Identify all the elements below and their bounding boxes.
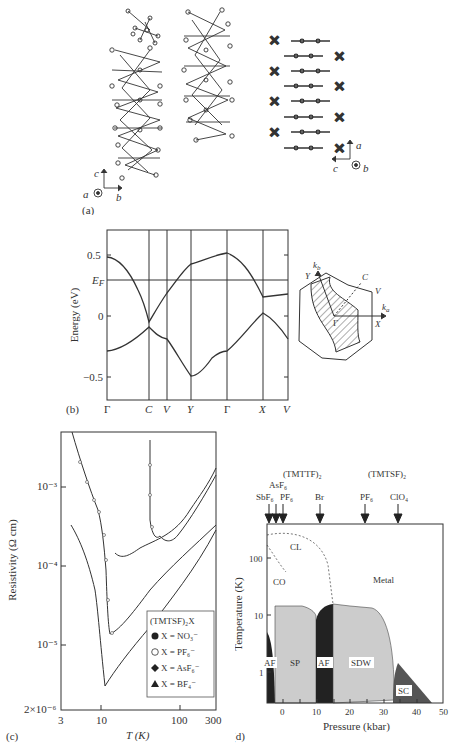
svg-text:C: C — [145, 403, 153, 415]
svg-text:✕: ✕ — [334, 49, 345, 64]
bz-ka-label: ka — [382, 302, 390, 314]
panel-c-label: (c) — [6, 730, 19, 743]
legend-item-bf4: X = BF₄⁻ — [161, 679, 196, 689]
bz-kb-label: kb — [313, 260, 321, 272]
legend-item-asf6: X = AsF₆⁻ — [161, 663, 200, 673]
xtick-30: 30 — [379, 707, 389, 717]
region-af-mid — [316, 604, 333, 703]
ytick-100: 100 — [249, 554, 263, 564]
curve-asf6 — [150, 440, 216, 541]
panel-a-label: (a) — [82, 204, 95, 215]
upper-band — [107, 253, 288, 322]
ytick-10: 10 — [254, 611, 264, 621]
svg-text:✕: ✕ — [334, 141, 345, 156]
arrow-label-br: Br — [315, 492, 324, 502]
middle-molecular-stack — [182, 8, 234, 142]
xtick-3: 3 — [58, 714, 64, 726]
ytick-0: 0 — [98, 310, 104, 322]
brillouin-zone — [299, 271, 386, 360]
panel-a: c b a (a) ✕ ✕ ✕ ✕ ✕ ✕ ✕ ✕ a c b — [0, 0, 459, 215]
xtick-0: 0 — [280, 707, 285, 717]
svg-text:✕: ✕ — [269, 125, 280, 140]
arrow-label-asf6: AsF₆ — [269, 480, 287, 490]
region-label-sc: SC — [398, 686, 409, 696]
axis-a-label: a — [83, 188, 89, 200]
svg-text:✕: ✕ — [269, 64, 280, 79]
svg-text:Y: Y — [187, 403, 195, 415]
band-xticks: Γ C V Y Γ X V — [104, 403, 291, 415]
svg-text:Γ: Γ — [224, 403, 230, 415]
axis-b-label: b — [116, 191, 122, 203]
fermi-label: EF — [91, 274, 105, 288]
region-label-sp: SP — [290, 658, 300, 668]
resistivity-xlabel: T (K) — [126, 729, 150, 742]
legend-item-pf6: X = PF₆⁻ — [161, 647, 195, 657]
arrow-label-pf6-tmttf: PF₆ — [280, 492, 293, 502]
panel-b: 0.5 0 −0.5 EF Energy (eV) Γ C V Y Γ X V … — [0, 215, 459, 420]
lower-band — [107, 313, 288, 376]
resistivity-chart: 10⁻³ 10⁻⁴ 10⁻⁵ 2×10⁻⁶ 3 10 100 300 T (K)… — [0, 420, 235, 746]
side-view-stack: ✕ ✕ ✕ ✕ ✕ ✕ ✕ ✕ — [269, 33, 360, 169]
region-label-af-mid: AF — [318, 658, 330, 668]
ytick-2e-6: 2×10⁻⁶ — [24, 703, 57, 715]
legend-item-no3: X = NO₃⁻ — [161, 631, 198, 641]
arrow-label-pf6-tmtsf: PF₆ — [360, 492, 373, 502]
region-label-sdw: SDW — [351, 658, 372, 668]
svg-text:V: V — [283, 403, 291, 415]
xtick-300: 300 — [205, 714, 222, 726]
svg-text:✕: ✕ — [334, 79, 345, 94]
phase-diagram-chart: (TMTTF)₂ (TMTSF)₂ SbF₆ AsF₆ PF₆ Br PF₆ C… — [235, 420, 459, 746]
xtick-10: 10 — [312, 707, 322, 717]
crystal-structure-drawing: c b a (a) ✕ ✕ ✕ ✕ ✕ ✕ ✕ ✕ a c b — [0, 0, 459, 215]
svg-text:✕: ✕ — [269, 33, 280, 48]
axis-b-label-right: b — [363, 162, 369, 174]
legend-marker-filled-circle — [152, 633, 159, 640]
resistivity-legend: (TMTSF)₂X X = NO₃⁻ X = PF₆⁻ X = AsF₆⁻ X … — [147, 611, 214, 697]
axis-c-label: c — [94, 167, 99, 179]
svg-text:✕: ✕ — [334, 110, 345, 125]
phase-xlabel: Pressure (kbar) — [323, 720, 390, 733]
region-label-metal: Metal — [373, 575, 394, 585]
region-label-af-left: AF — [264, 658, 276, 668]
bz-Y-label: Y — [305, 271, 311, 281]
panel-c: 10⁻³ 10⁻⁴ 10⁻⁵ 2×10⁻⁶ 3 10 100 300 T (K)… — [0, 420, 235, 746]
panel-d-label: (d) — [235, 730, 245, 743]
compound-arrows — [265, 504, 402, 523]
axis-a-label-right: a — [356, 139, 362, 151]
xtick-20: 20 — [345, 707, 355, 717]
legend-title: (TMTSF)₂X — [150, 616, 195, 626]
region-label-co: CO — [273, 577, 286, 587]
band-structure-chart: 0.5 0 −0.5 EF Energy (eV) Γ C V Y Γ X V … — [0, 215, 459, 420]
region-sdw — [333, 604, 394, 703]
band-ylabel: Energy (eV) — [68, 287, 81, 342]
xtick-10: 10 — [96, 714, 108, 726]
ytick-neg0.5: −0.5 — [83, 371, 103, 383]
row: ✕ — [269, 33, 330, 48]
phase-ylabel: Temperature (K) — [235, 577, 245, 651]
bz-V-label: V — [375, 286, 382, 296]
ytick-1e-3: 10⁻³ — [37, 480, 58, 492]
group-label-tmtsf: (TMTSF)₂ — [368, 469, 406, 479]
ytick-0.5: 0.5 — [87, 249, 101, 261]
ytick-1e-4: 10⁻⁴ — [37, 559, 58, 571]
axis-c-label-right: c — [333, 162, 338, 174]
svg-text:V: V — [163, 403, 171, 415]
xtick-100: 100 — [171, 714, 188, 726]
curve-no3 — [115, 468, 216, 556]
anion-cluster — [126, 9, 160, 45]
svg-text:X: X — [258, 403, 267, 415]
xtick-40: 40 — [412, 707, 422, 717]
panel-b-label: (b) — [66, 403, 79, 416]
left-molecular-stack — [110, 46, 162, 180]
legend-marker-open-circle — [152, 649, 159, 656]
svg-text:Γ: Γ — [104, 403, 110, 415]
panel-d: (TMTTF)₂ (TMTSF)₂ SbF₆ AsF₆ PF₆ Br PF₆ C… — [235, 420, 459, 746]
region-sp — [275, 606, 316, 703]
bz-C-label: C — [362, 272, 369, 282]
region-label-cl: CL — [290, 542, 302, 552]
ytick-1e-5: 10⁻⁵ — [37, 638, 58, 650]
group-label-tmttf: (TMTTF)₂ — [283, 469, 322, 479]
arrow-label-sbf6: SbF₆ — [256, 492, 274, 502]
xtick-50: 50 — [439, 707, 449, 717]
curve-pf6 — [72, 432, 216, 634]
